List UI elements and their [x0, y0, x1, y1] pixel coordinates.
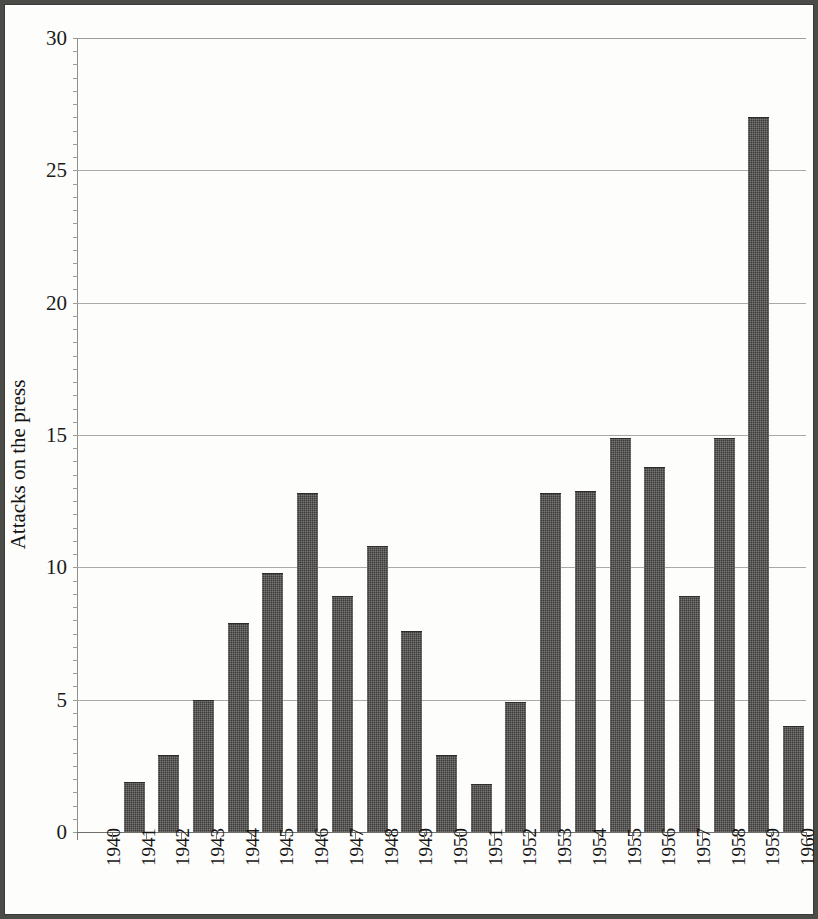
y-axis-tick-label: 15 — [19, 425, 67, 446]
x-axis-tick — [424, 833, 425, 840]
bar — [505, 702, 526, 832]
bar — [610, 438, 631, 832]
x-axis-tick — [146, 833, 147, 840]
bar — [297, 493, 318, 832]
x-axis-tick — [771, 833, 772, 840]
x-axis-tick — [702, 833, 703, 840]
gridline — [77, 567, 806, 568]
x-axis-tick — [389, 833, 390, 840]
y-axis-tick-label: 0 — [19, 822, 67, 843]
x-axis-tick-label: 1940 — [104, 847, 123, 866]
x-axis-tick-label: 1949 — [416, 847, 435, 866]
x-axis-tick — [77, 833, 78, 840]
x-axis-tick-label: 1943 — [208, 847, 227, 866]
x-axis-tick — [181, 833, 182, 840]
x-axis-tick — [112, 833, 113, 840]
chart-frame: Attacks on the press 051015202530 194019… — [4, 4, 814, 915]
x-axis-tick-label: 1960 — [798, 847, 817, 866]
x-axis-tick — [494, 833, 495, 840]
x-axis-tick-label: 1945 — [277, 847, 296, 866]
bar — [714, 438, 735, 832]
x-axis-tick-label: 1956 — [659, 847, 678, 866]
x-axis-tick-label: 1958 — [729, 847, 748, 866]
y-axis-tick-label: 10 — [19, 557, 67, 578]
bar — [124, 782, 145, 832]
x-axis-tick-label: 1955 — [625, 847, 644, 866]
x-axis-tick-label: 1944 — [243, 847, 262, 866]
x-axis-tick — [355, 833, 356, 840]
bar — [193, 700, 214, 832]
y-axis-tick-labels: 051015202530 — [15, 5, 67, 919]
bar — [436, 755, 457, 832]
x-axis-tick — [251, 833, 252, 840]
gridline — [77, 303, 806, 304]
gridline — [77, 38, 806, 39]
bar — [158, 755, 179, 832]
x-axis-tick-label: 1954 — [590, 847, 609, 866]
bar — [540, 493, 561, 832]
gridline — [77, 435, 806, 436]
x-axis-tick — [806, 833, 807, 840]
x-axis-tick-label: 1950 — [451, 847, 470, 866]
x-axis-tick — [598, 833, 599, 840]
x-axis-tick-label: 1951 — [486, 847, 505, 866]
x-axis-tick-label: 1952 — [520, 847, 539, 866]
bar — [367, 546, 388, 832]
x-axis-tick — [737, 833, 738, 840]
x-axis-tick — [459, 833, 460, 840]
bar — [783, 726, 804, 832]
y-axis-tick-label: 20 — [19, 292, 67, 313]
bar — [332, 596, 353, 832]
x-axis-tick — [320, 833, 321, 840]
x-axis-tick-label: 1948 — [382, 847, 401, 866]
bar — [262, 573, 283, 832]
x-axis-tick — [528, 833, 529, 840]
x-axis-tick — [216, 833, 217, 840]
y-axis-tick-label: 25 — [19, 160, 67, 181]
plot-area — [77, 38, 806, 832]
x-axis-tick-label: 1957 — [694, 847, 713, 866]
x-axis-tick — [632, 833, 633, 840]
bar — [471, 784, 492, 832]
x-axis-tick-label: 1959 — [763, 847, 782, 866]
x-axis-tick — [285, 833, 286, 840]
bar — [644, 467, 665, 832]
x-axis-tick — [667, 833, 668, 840]
x-axis-tick-label: 1942 — [173, 847, 192, 866]
x-axis-tick-label: 1946 — [312, 847, 331, 866]
bar — [575, 491, 596, 832]
bar — [401, 631, 422, 832]
x-axis-tick-label: 1947 — [347, 847, 366, 866]
x-axis-tick-label: 1941 — [139, 847, 158, 866]
y-axis-tick-label: 30 — [19, 28, 67, 49]
y-axis-tick-label: 5 — [19, 689, 67, 710]
gridline — [77, 170, 806, 171]
x-axis-tick — [563, 833, 564, 840]
x-axis-tick-label: 1953 — [555, 847, 574, 866]
bar — [228, 623, 249, 832]
bar — [679, 596, 700, 832]
bar — [748, 117, 769, 832]
